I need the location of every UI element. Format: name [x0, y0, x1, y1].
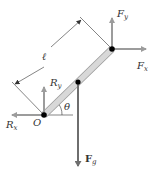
center-of-mass-point [75, 79, 80, 84]
angle-label: θ [64, 101, 70, 112]
fg-label: Fg [85, 153, 97, 166]
fx-label: Fx [136, 60, 148, 73]
end-point [109, 46, 115, 52]
free-body-diagram: ℓ θ O Fy Fx Ry Rx Fg [0, 0, 156, 172]
rx-label: Rx [5, 119, 18, 132]
fy-label: Fy [116, 8, 129, 21]
ry-label: Ry [49, 77, 63, 90]
pivot-label: O [33, 117, 41, 128]
pivot-point [41, 112, 47, 118]
length-label: ℓ [42, 51, 46, 62]
